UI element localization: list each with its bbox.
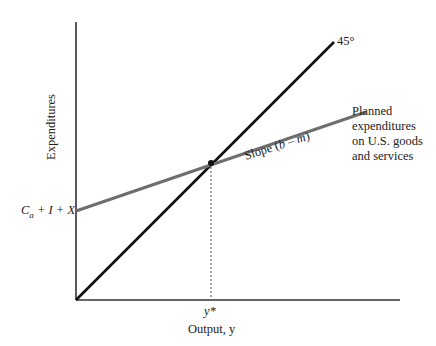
line-45-label: 45° <box>337 34 355 49</box>
equilibrium-point <box>208 160 214 166</box>
intercept-label: Ca + I + X <box>21 203 75 223</box>
planned-expenditures-line <box>76 112 366 211</box>
equilibrium-output-label: y* <box>204 304 216 319</box>
intercept-rest: + I + X <box>34 203 75 217</box>
planned-label-line: Planned <box>352 104 423 119</box>
planned-label-line: expenditures <box>352 119 423 134</box>
line-45-degree <box>76 42 334 300</box>
keynesian-cross-diagram: Slope (b – m) <box>0 0 436 346</box>
planned-expenditures-label: Planned expenditures on U.S. goods and s… <box>352 104 423 164</box>
slope-label: Slope (b – m) <box>243 129 312 163</box>
planned-label-line: on U.S. goods <box>352 134 423 149</box>
x-axis-label: Output, y <box>188 322 235 337</box>
y-axis-label: Expenditures <box>44 94 59 160</box>
planned-label-line: and services <box>352 149 423 164</box>
